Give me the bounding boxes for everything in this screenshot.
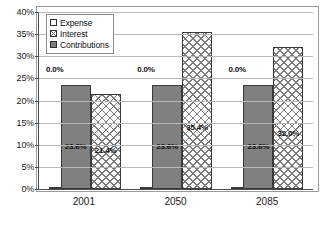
y-axis-tick-label: 35%: [17, 29, 34, 39]
legend-label-expense: Expense: [60, 18, 92, 28]
bar-value-label: 0.0%: [137, 65, 154, 74]
bar-value-label: 32.0%: [277, 129, 299, 138]
y-axis-tick-label: 0%: [21, 184, 34, 194]
bar-value-label: 23.6%: [247, 142, 269, 151]
legend-swatch-contributions-icon: [50, 41, 57, 48]
chart-legend: Expense Interest Contributions: [46, 14, 114, 54]
y-tick-mark: [35, 101, 39, 102]
y-tick-mark: [35, 78, 39, 79]
y-axis-tick-label: 40%: [17, 7, 34, 17]
y-tick-mark: [35, 189, 39, 190]
legend-label-contributions: Contributions: [60, 40, 109, 50]
y-axis-tick-label: 15%: [17, 118, 34, 128]
gridline: [39, 56, 313, 57]
bar-value-label: 0.0%: [229, 65, 246, 74]
x-axis-tick-label: 2085: [221, 196, 313, 207]
gridline: [39, 78, 313, 79]
y-axis-tick-label: 25%: [17, 73, 34, 83]
bar-expense-2050[interactable]: 0.0%: [140, 187, 152, 189]
y-tick-mark: [35, 34, 39, 35]
legend-item-expense[interactable]: Expense: [50, 17, 109, 28]
bar-value-label: 35.4%: [186, 123, 208, 132]
x-axis-labels: 200120502085: [38, 196, 313, 207]
y-tick-mark: [35, 167, 39, 168]
legend-swatch-interest-icon: [50, 30, 57, 37]
y-axis-tick-label: 20%: [17, 96, 34, 106]
bar-chart: 0.0%23.6%21.4%0.0%23.6%35.4%0.0%23.6%32.…: [0, 0, 324, 226]
bar-value-label: 23.6%: [156, 142, 178, 151]
bar-expense-2001[interactable]: 0.0%: [49, 187, 61, 189]
bar-interest-2001[interactable]: 21.4%: [91, 94, 121, 189]
legend-item-interest[interactable]: Interest: [50, 28, 109, 39]
bar-expense-2085[interactable]: 0.0%: [231, 187, 243, 189]
x-axis-tick-label: 2001: [38, 196, 130, 207]
legend-item-contributions[interactable]: Contributions: [50, 39, 109, 50]
gridline: [39, 145, 313, 146]
legend-label-interest: Interest: [60, 29, 88, 39]
gridline: [39, 12, 313, 13]
bar-value-label: 21.4%: [95, 146, 117, 155]
y-axis-tick-label: 30%: [17, 51, 34, 61]
bar-value-label: 0.0%: [46, 65, 63, 74]
legend-swatch-expense-icon: [50, 19, 57, 26]
y-tick-mark: [35, 12, 39, 13]
gridline: [39, 167, 313, 168]
y-tick-mark: [35, 56, 39, 57]
x-axis-tick-label: 2050: [130, 196, 222, 207]
y-tick-mark: [35, 145, 39, 146]
y-axis-tick-label: 10%: [17, 140, 34, 150]
y-tick-mark: [35, 123, 39, 124]
bar-value-label: 23.6%: [65, 142, 87, 151]
y-axis-tick-label: 5%: [21, 162, 34, 172]
gridline: [39, 101, 313, 102]
gridline: [39, 123, 313, 124]
